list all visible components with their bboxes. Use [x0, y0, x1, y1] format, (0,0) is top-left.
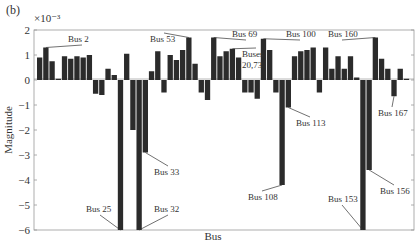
- bar: [68, 59, 73, 80]
- bar: [236, 58, 241, 81]
- annotation-arrow: [369, 170, 394, 185]
- bar: [62, 56, 67, 80]
- bar: [192, 64, 197, 80]
- bar: [180, 50, 185, 80]
- bar: [335, 56, 340, 80]
- bar: [118, 80, 123, 230]
- bar: [211, 38, 216, 81]
- bar: [81, 58, 86, 81]
- bar: [342, 69, 347, 80]
- y-tick-label: −5: [18, 199, 30, 211]
- bus-annotation: Bus 167: [378, 108, 408, 118]
- bar: [317, 80, 322, 93]
- bus-annotation: Bus 69: [232, 29, 258, 39]
- bar: [354, 78, 359, 81]
- bar: [112, 75, 117, 80]
- bar: [242, 80, 247, 93]
- y-scale-note: ×10⁻³: [34, 12, 61, 24]
- bar: [311, 48, 316, 81]
- bus-annotation: Bus 108: [248, 192, 278, 202]
- bar: [155, 51, 160, 80]
- bar: [49, 61, 54, 80]
- bar: [391, 80, 396, 96]
- bar: [230, 49, 235, 80]
- bar: [348, 56, 353, 80]
- y-tick-label: 1: [25, 49, 31, 61]
- bar: [124, 54, 129, 80]
- annotation-arrow: [100, 215, 120, 230]
- y-tick-label: −2: [18, 124, 30, 136]
- bar: [161, 80, 166, 93]
- bar: [217, 56, 222, 80]
- y-tick-label: −4: [18, 174, 30, 186]
- bar: [205, 80, 210, 100]
- bar: [87, 55, 92, 80]
- bus-annotation: Bus 53: [150, 34, 176, 44]
- y-tick-label: 0: [25, 74, 31, 86]
- bus-annotation: Bus 100: [286, 29, 316, 39]
- bar: [149, 71, 154, 80]
- bar: [248, 80, 253, 93]
- bar: [273, 80, 278, 93]
- bar: [43, 48, 48, 81]
- bar: [37, 58, 42, 81]
- panel-label: (b): [6, 3, 20, 17]
- bar: [385, 69, 390, 80]
- bar: [174, 60, 179, 80]
- annotation-arrow: [392, 96, 394, 107]
- bar: [56, 79, 61, 80]
- bus-annotation: Bus 33: [154, 167, 180, 177]
- bar: [186, 38, 191, 81]
- bus-annotation: Bus 25: [86, 204, 112, 214]
- bar: [373, 38, 378, 81]
- y-tick-label: 2: [25, 24, 31, 36]
- y-tick-label: −3: [18, 149, 30, 161]
- bar: [404, 79, 409, 80]
- bar: [267, 50, 272, 80]
- bus-annotation: Bus 32: [154, 204, 179, 214]
- bar: [255, 80, 260, 99]
- bar: [360, 80, 365, 230]
- bar: [292, 56, 297, 80]
- bar: [99, 80, 104, 95]
- bar: [74, 56, 79, 80]
- bar: [379, 59, 384, 80]
- annotation-arrow: [288, 108, 310, 118]
- bar: [105, 69, 110, 80]
- bus-annotation: Bus 160: [328, 29, 358, 39]
- bar: [130, 80, 135, 130]
- bar-chart: (b) ×10⁻³ 210−1−2−3−4−5−6 Bus 2Bus 25Bus…: [0, 0, 419, 243]
- bar: [298, 51, 303, 80]
- bar: [323, 48, 328, 81]
- bus-annotation: Bus 113: [296, 118, 326, 128]
- bar: [329, 69, 334, 80]
- bar: [304, 50, 309, 80]
- bar: [143, 80, 148, 153]
- annotation-arrow: [342, 205, 363, 230]
- bus-annotation: Buses: [242, 49, 264, 59]
- x-axis-title: Bus: [204, 230, 221, 242]
- bus-annotation: Bus 156: [380, 186, 410, 196]
- bar: [224, 51, 229, 80]
- bar: [366, 80, 371, 170]
- bar: [168, 55, 173, 80]
- bar: [136, 80, 141, 230]
- annotation-arrow: [145, 153, 168, 167]
- annotation-arrow: [262, 185, 282, 191]
- y-axis-title: Magnitude: [2, 106, 14, 154]
- bus-annotation: Bus 2: [68, 34, 89, 44]
- annotation-arrow: [139, 215, 168, 230]
- y-tick-label: −6: [18, 224, 30, 236]
- annotation-arrow: [46, 45, 82, 48]
- bar: [279, 80, 284, 185]
- bar: [286, 80, 291, 108]
- bus-annotation: 20,73: [242, 60, 263, 70]
- bar: [398, 69, 403, 80]
- y-tick-label: −1: [18, 99, 30, 111]
- bar: [93, 80, 98, 94]
- bar: [199, 80, 204, 93]
- bus-annotation: Bus 153: [328, 194, 358, 204]
